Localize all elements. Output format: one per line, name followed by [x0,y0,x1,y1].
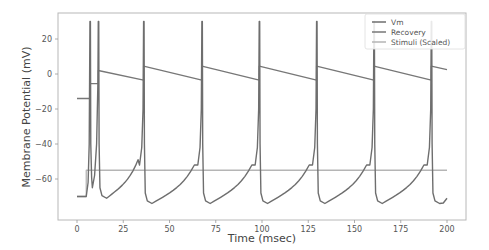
y-tick-label: 20 [42,35,52,44]
legend: Vm Recovery Stimuli (Scaled) [365,14,465,49]
x-tick-label: 0 [74,225,79,234]
legend-label-stimuli: Stimuli (Scaled) [391,38,450,47]
membrane-potential-chart: 0255075100125150175200 200−20−40−60 Time… [0,0,489,250]
y-tick-label: −20 [35,105,52,114]
y-axis-label: Membrane Potential (mV) [20,47,33,188]
y-tick-label: 0 [47,70,52,79]
x-tick-label: 175 [393,225,408,234]
x-tick-label: 125 [301,225,316,234]
x-tick-label: 50 [164,225,174,234]
legend-label-vm: Vm [391,18,403,27]
x-tick-label: 75 [211,225,221,234]
x-axis-label: Time (msec) [227,232,296,245]
x-tick-label: 150 [347,225,362,234]
y-tick-label: −60 [35,175,52,184]
legend-label-recovery: Recovery [391,28,426,37]
y-axis-ticks: 200−20−40−60 [35,35,58,184]
x-tick-label: 200 [439,225,454,234]
x-tick-label: 25 [118,225,128,234]
y-tick-label: −40 [35,140,52,149]
